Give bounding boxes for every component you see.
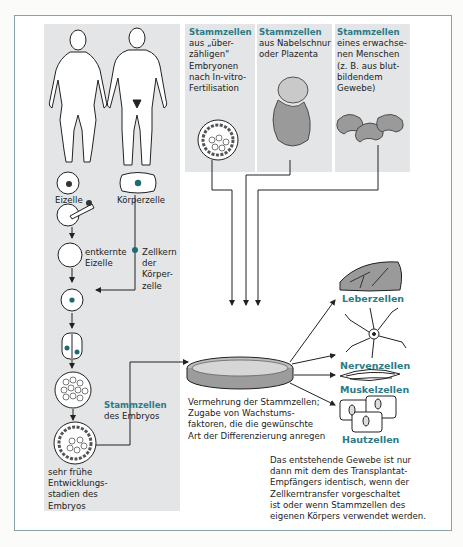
output-label-skin: Hautzellen [342,434,399,445]
morula-icon [55,372,91,408]
ivf-blastocyst-icon [198,120,238,160]
label-embryo-stem-cells: Stammzellen des Embryos [104,400,167,422]
petri-dish-icon [187,357,293,389]
output-label-liver: Leberzellen [342,293,404,304]
skin-cells-icon [340,396,396,432]
output-label-muscle: Muskelzellen [340,384,409,395]
source-label-adult: Stammzellen eines erwachse- nen Menschen… [337,27,407,94]
woman-figure-icon [49,30,106,162]
label-zellkern: Zellkern der Körper- zelle [142,247,177,292]
dish-caption: Vermehrung der Stammzellen; Zugabe von W… [188,397,325,442]
label-early-stages: sehr frühe Entwicklungs- stadien des Emb… [48,467,108,512]
source-label-ivf: Stammzellen aus „über- zähligen" Embryon… [189,27,252,94]
man-figure-icon [107,28,166,165]
label-koerperzelle: Körperzelle [117,195,165,206]
label-eizelle: Eizelle [55,195,83,206]
source-label-umbilical: Stammzellen aus Nabelschnur oder Plazent… [259,27,331,61]
label-entkernte-eizelle: entkernte Eizelle [85,247,127,269]
fetus-icon [273,77,310,146]
blastocyst-icon [54,422,96,464]
nucleus-icon [132,247,138,253]
output-label-nerve: Nervenzellen [340,360,410,371]
liver-cells-icon [340,262,402,291]
nerve-cell-icon [345,308,406,358]
enucleated-egg-icon [58,243,82,267]
blood-cells-icon [337,114,403,142]
tissue-note: Das entstehende Gewebe ist nur dann mit … [270,455,426,522]
muscle-cells-icon [340,369,400,380]
